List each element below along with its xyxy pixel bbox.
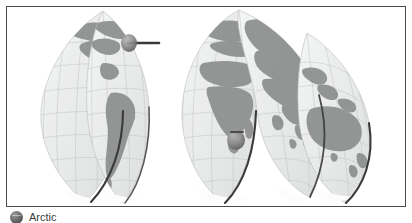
marker-north[interactable] (121, 34, 137, 52)
globe-icon (10, 211, 23, 223)
screen: Arctic (0, 0, 412, 223)
map-frame[interactable] (6, 6, 406, 207)
marker-south-africa[interactable] (227, 130, 245, 150)
caption: Arctic (10, 211, 57, 223)
caption-label: Arctic (29, 211, 57, 223)
world-map-image[interactable] (7, 7, 405, 206)
